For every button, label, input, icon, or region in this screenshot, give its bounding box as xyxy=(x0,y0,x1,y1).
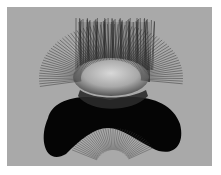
cap-ellipse xyxy=(73,58,149,96)
rendered-object xyxy=(7,7,212,166)
render-frame xyxy=(7,7,212,166)
